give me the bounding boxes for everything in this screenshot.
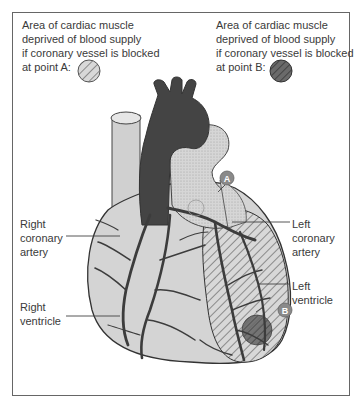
infarct-area-b <box>242 315 272 345</box>
svg-text:A: A <box>224 174 231 184</box>
point-b-marker: B <box>278 303 292 317</box>
svg-text:B: B <box>282 306 289 316</box>
swatch-a-icon <box>78 60 100 82</box>
swatch-b-icon <box>270 60 292 82</box>
heart-diagram: A B <box>0 0 361 405</box>
